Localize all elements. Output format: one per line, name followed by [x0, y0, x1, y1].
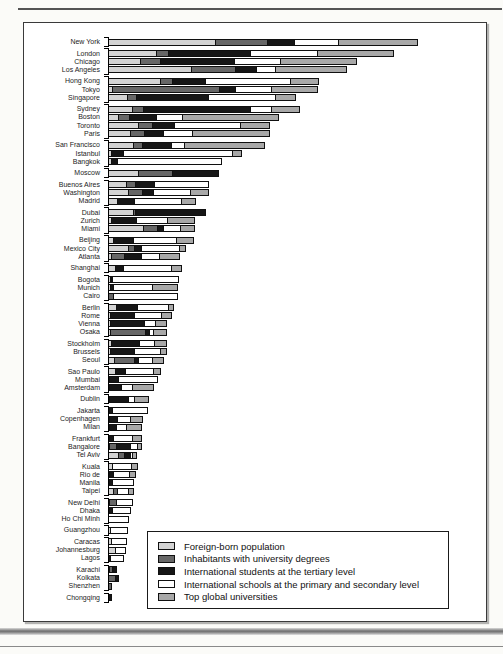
bar-row-bogota: Bogota — [24, 276, 486, 284]
bar-segment-international-students-at-the-tertiary-level — [110, 312, 135, 319]
city-group: FrankfurtBangaloreTel Aviv — [24, 435, 486, 460]
city-label: Stockholm — [24, 340, 104, 348]
city-label: Sydney — [24, 105, 104, 113]
bar-segment-foreign-born-population — [108, 209, 134, 216]
bar-segment-top-global-universities — [131, 463, 138, 470]
city-label: Rome — [24, 312, 104, 320]
bar-row-frankfurt: Frankfurt — [24, 435, 486, 443]
bar-segment-foreign-born-population — [108, 142, 134, 149]
bar-segment-foreign-born-population — [108, 181, 127, 188]
bar-segment-international-schools-at-the-primary-and-secondary-level — [208, 94, 276, 101]
stacked-bar — [108, 78, 319, 85]
bar-segment-top-global-universities — [128, 488, 134, 495]
stacked-bar — [108, 106, 300, 113]
bar-segment-top-global-universities — [192, 130, 270, 137]
city-label: Lagos — [24, 554, 104, 562]
bar-row-madrid: Madrid — [24, 197, 486, 205]
bar-segment-international-students-at-the-tertiary-level — [143, 106, 251, 113]
stacked-bar — [108, 357, 164, 364]
bar-row-shanghai: Shanghai — [24, 264, 486, 272]
city-label: Hong Kong — [24, 77, 104, 85]
bar-segment-international-schools-at-the-primary-and-secondary-level — [250, 106, 272, 113]
city-group: Sao PauloMumbaiAmsterdam — [24, 367, 486, 392]
stacked-bar — [108, 245, 186, 252]
bar-segment-international-schools-at-the-primary-and-secondary-level — [112, 507, 131, 514]
bar-segment-international-schools-at-the-primary-and-secondary-level — [110, 555, 124, 562]
bar-row-london: London — [24, 49, 486, 57]
group-axis-tick — [104, 366, 109, 393]
bar-row-sao-paulo: Sao Paulo — [24, 367, 486, 375]
city-label: Dubai — [24, 209, 104, 217]
bar-segment-international-schools-at-the-primary-and-secondary-level — [111, 538, 127, 545]
city-group: Buenos AiresWashingtonMadrid — [24, 181, 486, 206]
bar-segment-inhabitants-with-university-degrees — [111, 253, 125, 260]
city-label: London — [24, 50, 104, 58]
stacked-bar — [108, 312, 172, 319]
bar-segment-top-global-universities — [182, 114, 279, 121]
bar-segment-foreign-born-population — [108, 189, 129, 196]
bar-segment-international-schools-at-the-primary-and-secondary-level — [112, 479, 134, 486]
legend-label: Top global universities — [184, 591, 277, 602]
city-label: Guangzhou — [24, 526, 104, 534]
bar-segment-foreign-born-population — [108, 66, 192, 73]
bottom-rule-thick — [0, 628, 503, 635]
group-axis-tick — [104, 140, 109, 167]
stacked-bar — [108, 488, 134, 495]
bar-segment-top-global-universities — [275, 94, 296, 101]
stacked-bar — [108, 348, 167, 355]
stacked-bar — [108, 376, 158, 383]
city-label: Vienna — [24, 320, 104, 328]
stacked-bar — [108, 424, 142, 431]
stacked-bar — [108, 463, 138, 470]
bar-segment-foreign-born-population — [108, 245, 129, 252]
city-label: Cairo — [24, 292, 104, 300]
legend-item-top-global-universities: Top global universities — [158, 590, 448, 603]
city-label: Moscow — [24, 169, 104, 177]
bar-row-beijing: Beijing — [24, 236, 486, 244]
bar-row-taipei: Taipei — [24, 487, 486, 495]
bar-row-milan: Milan — [24, 423, 486, 431]
city-label: Singapore — [24, 94, 104, 102]
group-axis-tick — [104, 76, 109, 103]
bar-row-miami: Miami — [24, 225, 486, 233]
bar-segment-international-schools-at-the-primary-and-secondary-level — [133, 237, 177, 244]
legend-label: Inhabitants with university degrees — [184, 553, 330, 564]
bar-segment-international-students-at-the-tertiary-level — [160, 58, 235, 65]
city-label: Karachi — [24, 566, 104, 574]
bar-row-zurich: Zurich — [24, 217, 486, 225]
bar-segment-top-global-universities — [132, 384, 154, 391]
group-axis-tick — [104, 275, 109, 302]
bar-segment-inhabitants-with-university-degrees — [128, 189, 143, 196]
bar-segment-foreign-born-population — [108, 130, 131, 137]
bar-segment-foreign-born-population — [108, 122, 139, 129]
legend-swatch — [158, 593, 175, 601]
bar-segment-top-global-universities — [132, 435, 142, 442]
bar-segment-international-students-at-the-tertiary-level — [235, 66, 257, 73]
legend-item-foreign-born-population: Foreign-born population — [158, 540, 448, 553]
bar-row-dubai: Dubai — [24, 208, 486, 216]
bar-row-san-francisco: San Francisco — [24, 141, 486, 149]
bar-segment-international-schools-at-the-primary-and-secondary-level — [174, 122, 241, 129]
bar-segment-foreign-born-population — [108, 39, 216, 46]
bottom-rule-thin — [0, 646, 503, 647]
city-label: Kuala — [24, 463, 104, 471]
stacked-bar — [108, 142, 265, 149]
bar-row-istanbul: Istanbul — [24, 149, 486, 157]
bar-segment-international-schools-at-the-primary-and-secondary-level — [250, 50, 318, 57]
bar-segment-international-students-at-the-tertiary-level — [135, 181, 155, 188]
bar-row-mumbai: Mumbai — [24, 376, 486, 384]
legend-swatch — [158, 567, 175, 575]
bar-segment-international-students-at-the-tertiary-level — [267, 39, 295, 46]
stacked-bar — [108, 516, 129, 523]
legend-label: International students at the tertiary l… — [184, 566, 355, 577]
bar-segment-international-schools-at-the-primary-and-secondary-level — [113, 471, 130, 478]
stacked-bar — [108, 237, 194, 244]
city-label: Milan — [24, 423, 104, 431]
legend-box: Foreign-born populationInhabitants with … — [147, 531, 449, 609]
city-label: Kolkata — [24, 574, 104, 582]
city-group: Moscow — [24, 169, 486, 177]
bar-row-brussels: Brussels — [24, 348, 486, 356]
city-label: Osaka — [24, 328, 104, 336]
stacked-bar — [108, 566, 117, 573]
city-label: New Delhi — [24, 499, 104, 507]
